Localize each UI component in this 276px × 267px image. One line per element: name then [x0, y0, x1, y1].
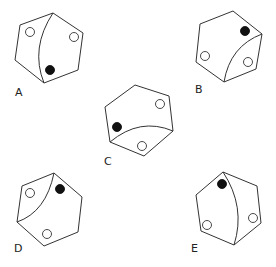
filled-circle-icon — [56, 185, 65, 194]
hexagon-puzzle-canvas: A B C D E — [0, 0, 276, 267]
figure-e[interactable]: E — [191, 172, 261, 255]
figure-b[interactable]: B — [195, 11, 262, 96]
open-circle-icon — [244, 58, 253, 67]
figure-c[interactable]: C — [104, 85, 173, 168]
filled-circle-icon — [46, 66, 55, 75]
open-circle-icon — [203, 221, 212, 230]
open-circle-icon — [138, 142, 147, 151]
open-circle-icon — [156, 100, 165, 109]
figure-label-e: E — [191, 242, 198, 255]
figure-label-c: C — [104, 155, 112, 168]
hexagon-outline — [196, 172, 261, 245]
open-circle-icon — [43, 230, 52, 239]
filled-circle-icon — [241, 27, 250, 36]
filled-circle-icon — [218, 180, 227, 189]
open-circle-icon — [70, 33, 79, 42]
figure-label-a: A — [15, 86, 23, 99]
hexagon-outline — [196, 11, 262, 82]
filled-circle-icon — [113, 123, 122, 132]
figure-d[interactable]: D — [14, 173, 82, 255]
figure-label-b: B — [195, 83, 203, 96]
figure-label-d: D — [14, 242, 22, 255]
open-circle-icon — [201, 52, 210, 61]
open-circle-icon — [249, 214, 258, 223]
open-circle-icon — [26, 189, 35, 198]
figure-a[interactable]: A — [15, 13, 83, 99]
open-circle-icon — [26, 28, 35, 37]
